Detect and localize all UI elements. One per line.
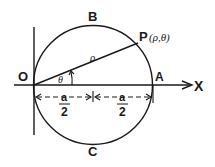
radius-line	[34, 43, 138, 85]
label-rho: ρ	[89, 51, 95, 63]
label-a: A	[155, 70, 164, 84]
label-b: B	[88, 9, 97, 24]
label-a-right-num: a	[119, 91, 126, 103]
label-o: O	[18, 69, 28, 84]
label-a-right-den: 2	[119, 105, 126, 119]
label-a-left-den: 2	[61, 105, 68, 119]
label-p: P	[139, 29, 148, 44]
label-c: C	[88, 144, 98, 159]
polar-circle-diagram: B C O A X P (ρ,θ) ρ θ a 2 a 2	[0, 0, 215, 167]
label-x: X	[194, 78, 204, 94]
label-p-coords: (ρ,θ)	[149, 31, 170, 44]
label-theta: θ	[58, 74, 63, 85]
label-a-left-num: a	[61, 91, 68, 103]
angle-arc-icon	[71, 72, 72, 85]
